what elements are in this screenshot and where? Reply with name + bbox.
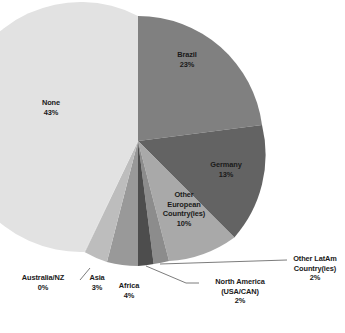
leader-line-north-america (146, 266, 199, 283)
pie-label-asia-name: Asia (83, 273, 111, 283)
pie-label-germany: Germany 13% (192, 160, 260, 179)
pie-label-africa-name: Africa (112, 281, 146, 291)
pie-label-brazil: Brazil 23% (154, 50, 220, 69)
pie-label-other-european-line-1: Other (153, 190, 215, 200)
pie-label-other-european-line-3: Country(ies) (153, 209, 215, 219)
pie-label-north-america-value: 2% (198, 296, 282, 306)
leader-line-other-latam (160, 260, 287, 264)
pie-label-australia-nz-value: 0% (8, 283, 78, 293)
pie-label-africa: Africa 4% (112, 281, 146, 300)
pie-label-other-latam-line-1: Other LatAm (285, 254, 345, 264)
pie-label-none-name: None (27, 98, 75, 108)
pie-label-africa-value: 4% (112, 291, 146, 301)
pie-label-australia-nz-name: Australia/NZ (8, 273, 78, 283)
pie-label-other-latam-value: 2% (285, 273, 345, 283)
pie-label-north-america: North America (USA/CAN) 2% (198, 277, 282, 306)
pie-label-other-latam-line-2: Country(ies) (285, 264, 345, 274)
pie-label-other-european-value: 10% (153, 219, 215, 229)
pie-label-none: None 43% (27, 98, 75, 117)
pie-label-brazil-value: 23% (154, 60, 220, 70)
pie-label-asia: Asia 3% (83, 273, 111, 292)
pie-label-north-america-line-1: North America (198, 277, 282, 287)
pie-chart: Brazil 23% Germany 13% Other European Co… (0, 0, 345, 333)
pie-label-none-value: 43% (27, 108, 75, 118)
pie-slice-brazil[interactable] (138, 16, 262, 141)
pie-label-other-latam: Other LatAm Country(ies) 2% (285, 254, 345, 283)
pie-label-australia-nz: Australia/NZ 0% (8, 273, 78, 292)
pie-label-other-european-line-2: European (153, 200, 215, 210)
pie-label-germany-value: 13% (192, 170, 260, 180)
pie-label-north-america-line-2: (USA/CAN) (198, 287, 282, 297)
pie-label-asia-value: 3% (83, 283, 111, 293)
pie-slices (0, 2, 266, 266)
pie-label-germany-name: Germany (192, 160, 260, 170)
pie-label-other-european: Other European Country(ies) 10% (153, 190, 215, 228)
pie-label-brazil-name: Brazil (154, 50, 220, 60)
